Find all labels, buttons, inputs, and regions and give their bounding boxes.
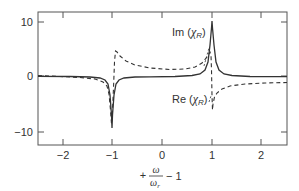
annotation-im: Im (χR) bbox=[172, 25, 206, 40]
re-leader bbox=[209, 96, 211, 102]
plot-frame bbox=[38, 12, 287, 145]
x-label-prefix: + bbox=[140, 169, 146, 181]
x-axis-label: + ω ωr − 1 bbox=[140, 164, 182, 190]
chart: −2 −1 0 1 2 10 0 −10 + ω ωr − 1 Im (χR) … bbox=[0, 0, 299, 191]
x-tick-label: 2 bbox=[258, 149, 264, 161]
series-im-line bbox=[38, 21, 287, 128]
x-tick-label: −1 bbox=[106, 149, 119, 161]
x-tick-label: −2 bbox=[57, 149, 70, 161]
y-tick-label: 0 bbox=[27, 70, 33, 82]
x-tick-label: 0 bbox=[159, 149, 165, 161]
y-tick-label: −10 bbox=[14, 126, 33, 138]
annotation-re: Re (χR) bbox=[172, 92, 208, 107]
x-label-numerator: ω bbox=[152, 164, 159, 175]
y-tick-label: 10 bbox=[21, 16, 33, 28]
x-label-denominator: ωr bbox=[150, 177, 160, 190]
series-re-line bbox=[38, 51, 287, 124]
x-label-suffix: − 1 bbox=[166, 170, 182, 182]
x-ticks bbox=[63, 12, 261, 145]
x-tick-label: 1 bbox=[209, 149, 215, 161]
